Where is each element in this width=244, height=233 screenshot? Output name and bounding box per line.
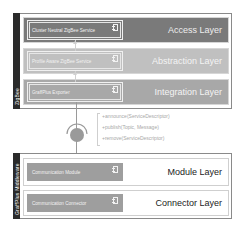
zigbee-group-label: ZigBee xyxy=(13,13,20,109)
component-label: Cluster Neutral ZigBee Service xyxy=(32,28,95,33)
access-layer-title: Access Layer xyxy=(168,25,222,35)
profile-aware-zigbee-service[interactable]: Profile Aware ZigBee Service xyxy=(27,51,123,71)
graffplus-label-text: GraffPlus Middleware xyxy=(14,163,20,215)
communication-connector[interactable]: Communication Connector xyxy=(27,194,123,212)
zigbee-label-text: ZigBee xyxy=(14,88,20,105)
component-label: Communication Connector xyxy=(32,201,86,206)
graffplus-group-label: GraffPlus Middleware xyxy=(13,153,20,219)
graffplus-exporter[interactable]: GraffPlus Exporter xyxy=(27,82,123,102)
interface-methods: +announce(ServiceDescriptor) +publish(To… xyxy=(102,111,212,144)
component-icon xyxy=(113,197,118,204)
component-icon xyxy=(113,166,118,173)
component-icon xyxy=(113,24,118,31)
interface-lollipop-icon xyxy=(64,120,90,146)
abstraction-layer-title: Abstraction Layer xyxy=(152,56,222,66)
connector-layer-title: Connector Layer xyxy=(155,198,222,208)
method-remove: +remove(ServiceDescriptor) xyxy=(102,133,212,144)
arrow-head-icon xyxy=(73,72,77,75)
component-label: GraffPlus Exporter xyxy=(32,90,70,95)
communication-module[interactable]: Communication Module xyxy=(27,163,123,181)
method-bracket xyxy=(97,113,100,146)
component-label: Profile Aware ZigBee Service xyxy=(32,59,91,64)
component-icon xyxy=(113,55,118,62)
cluster-neutral-zigbee-service[interactable]: Cluster Neutral ZigBee Service xyxy=(27,20,123,40)
method-publish: +publish(Topic, Message) xyxy=(102,122,212,133)
integration-layer-title: Integration Layer xyxy=(154,87,222,97)
component-label: Communication Module xyxy=(32,170,80,175)
arrow-head-icon xyxy=(73,41,77,44)
component-icon xyxy=(113,86,118,93)
module-layer-title: Module Layer xyxy=(167,167,222,177)
method-announce: +announce(ServiceDescriptor) xyxy=(102,111,212,122)
